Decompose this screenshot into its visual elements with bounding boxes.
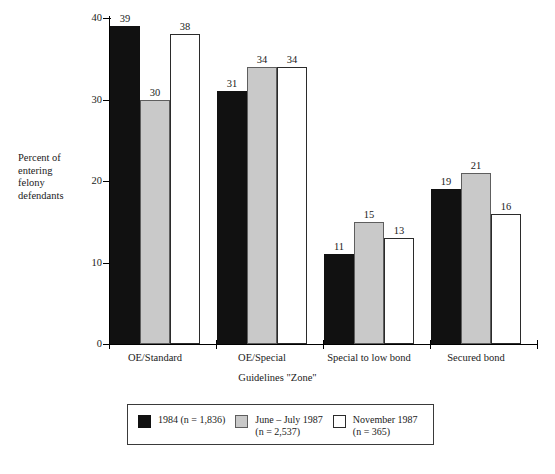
bar — [384, 238, 414, 344]
x-axis-group-label: OE/Special — [202, 352, 322, 364]
legend-items: 1984 (n = 1,836)June – July 1987 (n = 2,… — [128, 405, 433, 444]
y-axis-tick-label: 0 — [62, 339, 102, 349]
legend-swatch-icon — [235, 415, 248, 428]
bar-value-label: 31 — [217, 78, 247, 89]
bar-value-label: 13 — [384, 225, 414, 236]
bar — [431, 189, 461, 344]
y-axis-title-line-4: defendants — [18, 190, 102, 203]
legend-swatch-icon — [138, 415, 151, 428]
legend: 1984 (n = 1,836)June – July 1987 (n = 2,… — [127, 404, 434, 445]
bar-chart: Percent of entering felony defendants 01… — [0, 0, 555, 474]
x-axis-title: Guidelines "Zone" — [0, 372, 555, 383]
bar — [170, 34, 200, 344]
bar-value-label: 11 — [324, 241, 354, 252]
legend-label: June – July 1987 (n = 2,537) — [255, 414, 323, 438]
legend-item: 1984 (n = 1,836) — [138, 414, 225, 428]
bar — [461, 173, 491, 344]
y-axis-tick-label: 10 — [62, 258, 102, 268]
bar — [217, 91, 247, 344]
y-axis-tick-label: 20 — [62, 176, 102, 186]
bar-value-label: 34 — [247, 54, 277, 65]
bar — [110, 26, 140, 344]
y-axis-tick-label: 40 — [62, 13, 102, 23]
bar — [247, 67, 277, 344]
x-axis-group-label: Secured bond — [416, 352, 536, 364]
bar-value-label: 30 — [140, 87, 170, 98]
bar — [354, 222, 384, 344]
y-axis-title-line-1: Percent of — [18, 152, 102, 165]
bar — [491, 214, 521, 344]
bar-value-label: 21 — [461, 160, 491, 171]
x-axis-tick — [537, 340, 538, 349]
bar-value-label: 16 — [491, 201, 521, 212]
bar-value-label: 34 — [277, 54, 307, 65]
bar-value-label: 39 — [110, 13, 140, 24]
bar-value-label: 38 — [170, 21, 200, 32]
bar — [140, 100, 170, 345]
y-axis-tick-label: 30 — [62, 95, 102, 105]
x-axis-group-label: Special to low bond — [309, 352, 429, 364]
x-axis-group-label: OE/Standard — [95, 352, 215, 364]
legend-label: November 1987 (n = 365) — [353, 414, 418, 438]
legend-label: 1984 (n = 1,836) — [158, 414, 225, 426]
bar-value-label: 19 — [431, 176, 461, 187]
bar-value-label: 15 — [354, 209, 384, 220]
legend-item: June – July 1987 (n = 2,537) — [235, 414, 323, 438]
legend-swatch-icon — [333, 415, 346, 428]
legend-item: November 1987 (n = 365) — [333, 414, 418, 438]
bar — [277, 67, 307, 344]
bar — [324, 254, 354, 344]
